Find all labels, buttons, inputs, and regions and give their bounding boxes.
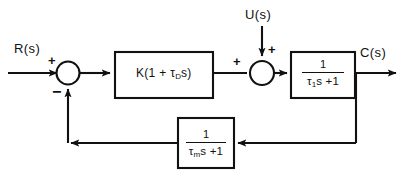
- disturbance-input-label: U(s): [245, 8, 271, 21]
- block-diagram-canvas: R(s) + − K(1 + τDs) U(s) + + 1 τ1s +1 C(…: [0, 0, 405, 181]
- reference-input-label: R(s): [14, 42, 40, 55]
- feedback-denominator-tail: s +1: [200, 145, 223, 157]
- controller-expression-head: K(1 + τ: [136, 66, 175, 80]
- feedback-fraction-bar: [186, 142, 226, 143]
- summing-junction-1-plus-sign: +: [48, 54, 56, 67]
- feedback-numerator: 1: [182, 129, 230, 141]
- feedback-denominator: τms +1: [182, 145, 230, 159]
- disturbance-summing-junction-circle: [250, 61, 274, 85]
- error-summing-junction-circle: [57, 62, 80, 85]
- plant-block-expression: 1 τ1s +1: [297, 59, 349, 89]
- summing-junction-2-plus-top: +: [268, 43, 276, 56]
- plant-denominator-tail: s +1: [316, 75, 339, 87]
- summing-junction-1-minus-sign: −: [52, 84, 61, 100]
- output-label: C(s): [360, 46, 386, 59]
- plant-numerator: 1: [297, 59, 349, 71]
- plant-denominator: τ1s +1: [297, 75, 349, 89]
- feedback-block-expression: 1 τms +1: [182, 129, 230, 159]
- controller-block-expression: K(1 + τDs): [136, 67, 192, 81]
- controller-expression-tail: s): [181, 66, 192, 80]
- summing-junction-2-plus-left: +: [233, 55, 241, 68]
- plant-fraction-bar: [302, 72, 344, 73]
